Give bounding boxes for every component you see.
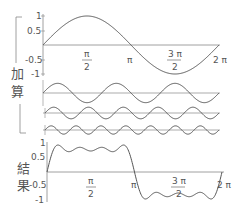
x-tick-3pi-half-den: 2 xyxy=(172,62,178,72)
x-tick-pi: π xyxy=(127,55,133,65)
result-y-tick-0.5: 0.5 xyxy=(31,152,45,162)
panel-fundamental: 1 0.5 -0.5 -1 π 2 π 3 π 2 2 π xyxy=(25,11,228,79)
fourier-diagram: 加 算 1 0.5 -0.5 -1 π 2 π 3 π 2 2 π 結 xyxy=(0,0,239,216)
panel-harmonics xyxy=(43,80,220,135)
result-x-tick-pi: π xyxy=(131,180,137,190)
y-tick-neg0.5: -0.5 xyxy=(25,55,43,65)
y-tick-1: 1 xyxy=(36,11,42,21)
sum-bracket-bottom xyxy=(20,104,26,133)
sum-bracket-top xyxy=(16,17,22,63)
x-tick-pi-half-den: 2 xyxy=(84,62,90,72)
result-x-tick-pi-half-num: π xyxy=(88,176,94,186)
result-y-tick-neg1: -1 xyxy=(35,195,44,205)
sum-label-2: 算 xyxy=(11,84,24,99)
result-x-tick-pi-half-den: 2 xyxy=(88,189,94,199)
y-tick-neg1: -1 xyxy=(31,69,40,79)
result-y-tick-neg0.5: -0.5 xyxy=(29,180,47,190)
result-label-1: 結 xyxy=(17,161,30,176)
result-y-tick-1: 1 xyxy=(40,138,46,148)
y-tick-0.5: 0.5 xyxy=(27,26,41,36)
result-x-tick-3pi-half-num: 3 π xyxy=(172,176,187,186)
sum-label-1: 加 xyxy=(11,66,24,81)
x-tick-3pi-half-num: 3 π xyxy=(168,49,183,59)
panel-result: 結 果 1 0.5 -0.5 -1 π 2 π 3 π 2 2 π xyxy=(17,138,232,205)
x-tick-2pi: 2 π xyxy=(213,55,228,65)
x-tick-pi-half-num: π xyxy=(84,49,90,59)
